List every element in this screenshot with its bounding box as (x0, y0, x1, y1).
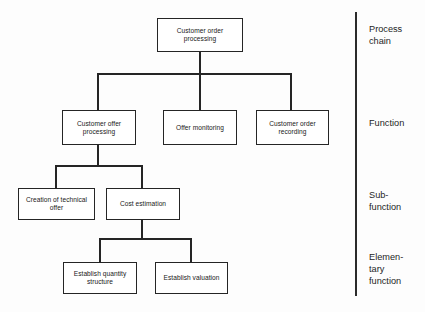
diagram-canvas: Customer order processing Customer offer… (0, 0, 425, 312)
node-label: Cost estimation (120, 200, 166, 208)
connector-root-stem (199, 52, 201, 74)
connector-bus-level4 (99, 238, 192, 240)
node-label: Establish valuation (164, 274, 220, 282)
level-label-sub-function: Sub- function (369, 190, 401, 214)
level-label-function: Function (369, 118, 404, 130)
node-establish-quantity-structure[interactable]: Establish quantity structure (63, 262, 137, 294)
node-customer-order-processing[interactable]: Customer order processing (157, 18, 243, 52)
connector-bus-level2 (97, 73, 292, 75)
connector-drop-cost-estimation (141, 165, 143, 188)
node-label: Establish quantity structure (66, 270, 134, 286)
connector-drop-offer-monitoring (199, 73, 201, 110)
node-cost-estimation[interactable]: Cost estimation (106, 188, 180, 220)
connector-offer-processing-stem (97, 145, 99, 166)
connector-drop-technical-offer (55, 165, 57, 188)
connector-bus-level3 (55, 165, 143, 167)
node-offer-monitoring[interactable]: Offer monitoring (163, 110, 237, 145)
connector-drop-quantity-structure (99, 238, 101, 262)
level-label-process-chain: Process chain (369, 24, 402, 48)
connector-drop-offer-processing (97, 73, 99, 110)
node-label: Customer order recording (259, 120, 326, 136)
node-creation-of-technical-offer[interactable]: Creation of technical offer (18, 188, 95, 220)
connector-drop-order-recording (290, 73, 292, 110)
connector-drop-valuation (190, 238, 192, 262)
level-divider-line (355, 12, 357, 296)
node-customer-order-recording[interactable]: Customer order recording (256, 110, 329, 145)
node-customer-offer-processing[interactable]: Customer offer processing (62, 110, 136, 145)
level-label-elementary-function: Elemen- tary function (369, 252, 403, 287)
node-label: Offer monitoring (176, 124, 224, 132)
node-establish-valuation[interactable]: Establish valuation (155, 262, 228, 294)
node-label: Creation of technical offer (21, 196, 92, 212)
node-label: Customer order processing (160, 27, 240, 43)
connector-cost-estimation-stem (141, 220, 143, 239)
node-label: Customer offer processing (65, 120, 133, 136)
